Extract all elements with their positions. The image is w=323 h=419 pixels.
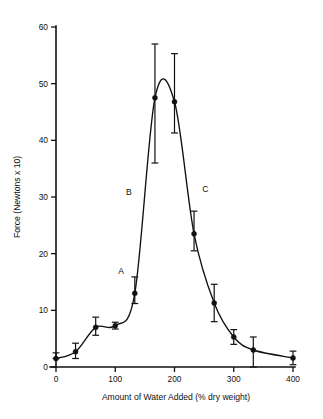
data-point-marker (231, 334, 236, 339)
annotation-label-b: B (126, 187, 132, 197)
y-axis-ticks: 0102030405060 (39, 22, 56, 372)
y-tick-label: 40 (39, 135, 49, 145)
error-bars-group (53, 44, 297, 367)
x-axis: 0100200300400 (50, 367, 300, 384)
data-point-markers (54, 95, 296, 361)
y-tick-label: 30 (39, 192, 49, 202)
data-point-marker (54, 356, 59, 361)
x-tick-label: 300 (227, 374, 241, 384)
chart-container: 0102030405060 0100200300400 ABC Amount o… (0, 0, 323, 419)
y-tick-label: 50 (39, 79, 49, 89)
data-point-marker (113, 323, 118, 328)
annotation-label-c: C (202, 184, 208, 194)
y-tick-label: 10 (39, 305, 49, 315)
data-point-marker (132, 291, 137, 296)
x-tick-label: 200 (168, 374, 182, 384)
y-axis-title: Force (Newtons x 10) (12, 156, 22, 238)
x-axis-ticks: 0100200300400 (54, 367, 301, 384)
data-point-marker (152, 95, 157, 100)
annotation-label-a: A (118, 266, 124, 276)
data-point-marker (93, 325, 98, 330)
x-tick-label: 100 (108, 374, 122, 384)
x-tick-label: 400 (286, 374, 300, 384)
data-point-marker (192, 231, 197, 236)
y-tick-label: 60 (39, 22, 49, 32)
data-point-marker (172, 99, 177, 104)
y-tick-label: 20 (39, 249, 49, 259)
data-point-marker (73, 349, 78, 354)
data-point-marker (251, 348, 256, 353)
x-tick-label: 0 (54, 374, 59, 384)
y-axis: 0102030405060 (39, 22, 56, 372)
data-point-marker (212, 300, 217, 305)
curve-region-annotations: ABC (118, 184, 208, 275)
y-tick-label: 0 (43, 362, 48, 372)
force-vs-water-line-chart: 0102030405060 0100200300400 ABC Amount o… (0, 0, 323, 419)
data-point-marker (291, 355, 296, 360)
x-axis-title: Amount of Water Added (% dry weight) (102, 392, 250, 402)
